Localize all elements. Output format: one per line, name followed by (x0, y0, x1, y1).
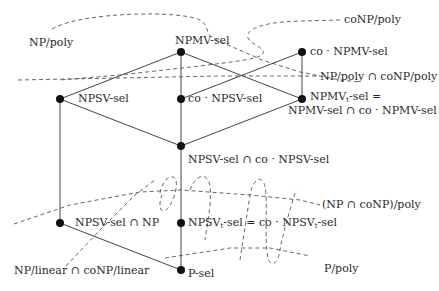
node-p-sel (177, 266, 185, 274)
region-label-np-cap-conp-poly: NP/poly ∩ coNP/poly (320, 71, 437, 83)
label-co-npmv-sel: co · NPMV-sel (310, 46, 388, 58)
region-label-np-poly: NP/poly (29, 37, 73, 49)
node-npsv-cap-co (177, 142, 185, 150)
label-p-sel: P-sel (188, 268, 214, 280)
edge-npsv-np-psel (60, 223, 181, 270)
label-npmvt-post: -sel = (349, 90, 381, 103)
conp-poly-boundary (60, 20, 340, 80)
label-npsvt-mid: -sel = co · NPSV (223, 216, 314, 229)
label-npsvt-sel: NPSVt-sel = co · NPSVt-sel (188, 217, 337, 232)
label-npsv-sel: NPSV-sel (78, 93, 129, 105)
node-co-npmv-sel (298, 48, 306, 56)
node-npmvt-sel (298, 95, 306, 103)
region-label-p-poly: P/poly (324, 263, 359, 275)
np-cap-conp-poly-boundary (18, 76, 320, 80)
label-npsvt-post: -sel (318, 216, 337, 229)
p-poly-boundary (165, 248, 310, 258)
node-co-npsv-sel (177, 95, 185, 103)
node-npmv-sel (177, 48, 185, 56)
region-label-np-conp-intersection-poly: (NP ∩ coNP)/poly (322, 199, 421, 211)
region-label-conp-poly: coNP/poly (344, 14, 401, 26)
node-npsvt-sel (177, 219, 185, 227)
class-inclusion-diagram: NPMV-sel co · NPMV-sel NPSV-sel co · NPS… (0, 0, 439, 291)
edge-npsv-cap (60, 99, 181, 146)
label-npmvt-pre: NPMV (310, 90, 346, 103)
label-npmvt-sel-line2: NPMV-sel ∩ co · NPMV-sel (288, 105, 437, 117)
label-npsvt-pre: NPSV (188, 216, 221, 229)
region-label-np-linear: NP/linear ∩ coNP/linear (14, 265, 149, 277)
node-npsv-sel (56, 95, 64, 103)
node-npsv-cap-np (56, 219, 64, 227)
label-npmv-sel: NPMV-sel (175, 35, 230, 47)
label-co-npsv-sel: co · NPSV-sel (188, 93, 262, 105)
label-npsv-cap-co: NPSV-sel ∩ co · NPSV-sel (188, 154, 329, 166)
wiggle-boundary-1 (160, 177, 176, 211)
edge-npmvt-cap (181, 99, 302, 146)
label-npsv-cap-np: NPSV-sel ∩ NP (75, 217, 159, 229)
